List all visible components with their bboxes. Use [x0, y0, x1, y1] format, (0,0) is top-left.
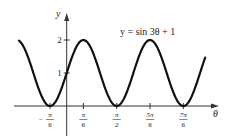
svg-text:π: π	[48, 111, 52, 119]
svg-text:π: π	[115, 111, 119, 119]
y-axis-label: y	[55, 8, 61, 19]
sine-graph: π6−π6π25π67π6 12 θ y y = sin 3θ + 1	[0, 0, 233, 139]
x-tick-0: π6−	[39, 103, 54, 129]
y-axis-arrow-icon	[64, 13, 69, 21]
svg-text:−: −	[39, 116, 43, 124]
svg-text:2: 2	[57, 35, 62, 45]
sine-curve	[19, 40, 205, 106]
x-axis-label: θ	[213, 108, 218, 119]
equation-label: y = sin 3θ + 1	[120, 26, 175, 37]
x-ticks: π6−π6π25π67π6	[39, 103, 187, 129]
svg-text:6: 6	[82, 121, 86, 129]
svg-text:6: 6	[48, 121, 52, 129]
svg-text:5π: 5π	[147, 111, 155, 119]
svg-text:6: 6	[148, 121, 152, 129]
x-tick-1: π6	[79, 103, 87, 129]
svg-text:π: π	[82, 111, 86, 119]
y-tick-1: 2	[57, 35, 69, 45]
svg-text:7π: 7π	[180, 111, 188, 119]
svg-text:6: 6	[182, 121, 186, 129]
svg-text:2: 2	[115, 121, 119, 129]
svg-text:1: 1	[57, 68, 62, 78]
x-tick-3: 5π6	[146, 103, 154, 129]
